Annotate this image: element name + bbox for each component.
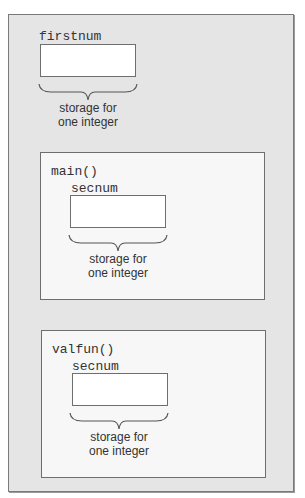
global-storage-box — [40, 44, 136, 77]
global-variable-label: firstnum — [39, 30, 101, 43]
curly-brace-icon — [67, 234, 169, 254]
caption-line-1: storage for — [33, 101, 143, 115]
local-storage-box — [72, 373, 168, 406]
function-name-label: main() — [51, 165, 98, 178]
global-storage-caption: storage for one integer — [33, 101, 143, 129]
local-variable-label: secnum — [71, 182, 118, 195]
curly-brace-icon — [37, 83, 139, 103]
valfun-function-scope: valfun() secnum storage for one integer — [41, 330, 266, 478]
function-name-label: valfun() — [52, 343, 114, 356]
caption-line-1: storage for — [63, 252, 173, 266]
local-storage-caption: storage for one integer — [63, 252, 173, 280]
caption-line-2: one integer — [33, 115, 143, 129]
main-function-scope: main() secnum storage for one integer — [40, 152, 265, 300]
local-variable-label: secnum — [72, 360, 119, 373]
global-scope-container: firstnum storage for one integer main() … — [8, 14, 294, 492]
curly-brace-icon — [68, 412, 170, 432]
local-storage-box — [70, 195, 166, 228]
caption-line-2: one integer — [63, 266, 173, 280]
local-storage-caption: storage for one integer — [64, 430, 174, 458]
caption-line-2: one integer — [64, 444, 174, 458]
caption-line-1: storage for — [64, 430, 174, 444]
